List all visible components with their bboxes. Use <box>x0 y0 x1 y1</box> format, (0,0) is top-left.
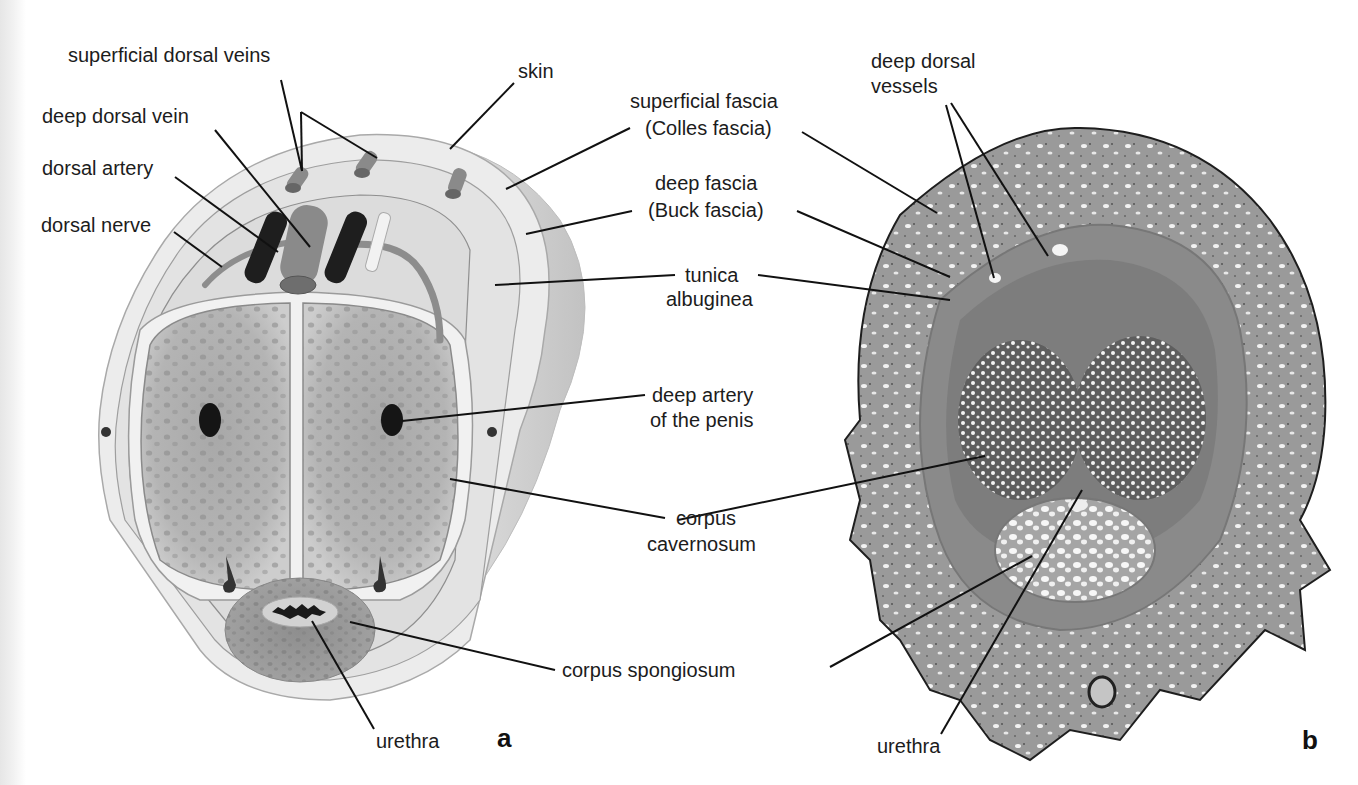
label-deep-dorsal-vein: deep dorsal vein <box>42 105 189 127</box>
histology-deep-dorsal-vessel <box>989 273 1001 283</box>
peripheral-vessel <box>101 427 111 437</box>
label-tunica-line2: albuginea <box>666 288 754 310</box>
corpus-cavernosum-right <box>303 303 458 590</box>
peripheral-vessel <box>487 427 497 437</box>
label-dorsal-nerve: dorsal nerve <box>41 214 151 236</box>
label-tunica-line1: tunica <box>685 264 739 286</box>
label-skin: skin <box>518 60 554 82</box>
panel-b-histology <box>845 128 1330 760</box>
histology-corpus-cavernosum-left <box>958 340 1082 500</box>
panel-a-illustration <box>99 135 585 700</box>
deep-dorsal-vein-lumen <box>280 276 316 294</box>
panel-letter-a: a <box>497 723 512 753</box>
label-deep-fascia-line2: (Buck fascia) <box>648 199 764 221</box>
label-deep-dorsal-vessels-line2: vessels <box>871 75 938 97</box>
label-urethra-b: urethra <box>877 735 941 757</box>
label-dorsal-artery: dorsal artery <box>42 157 153 179</box>
label-superficial-fascia-line1: superficial fascia <box>630 90 779 112</box>
label-corpus-cavernosum-line2: cavernosum <box>647 533 756 555</box>
label-corpus-cavernosum-line1: corpus <box>676 507 736 529</box>
label-superficial-dorsal-veins: superficial dorsal veins <box>68 44 270 66</box>
label-deep-dorsal-vessels-line1: deep dorsal <box>871 50 976 72</box>
histology-gland <box>1089 677 1115 707</box>
label-urethra-a: urethra <box>376 730 440 752</box>
panel-letter-b: b <box>1302 725 1318 755</box>
corpus-spongiosum <box>225 578 375 682</box>
histology-corpus-spongiosum <box>995 498 1155 602</box>
label-corpus-spongiosum: corpus spongiosum <box>562 659 735 681</box>
histology-corpus-cavernosum-right <box>1074 336 1206 500</box>
deep-artery-right <box>381 404 403 436</box>
histology-deep-dorsal-vessel <box>1052 244 1068 256</box>
label-superficial-fascia-line2: (Colles fascia) <box>645 117 772 139</box>
label-deep-artery-line1: deep artery <box>652 384 753 406</box>
label-deep-artery-line2: of the penis <box>650 409 753 431</box>
corpus-cavernosum-left <box>141 303 290 590</box>
label-deep-fascia-line1: deep fascia <box>655 172 758 194</box>
anatomy-figure: superficial dorsal veins deep dorsal vei… <box>0 0 1358 785</box>
deep-artery-left <box>199 403 221 437</box>
